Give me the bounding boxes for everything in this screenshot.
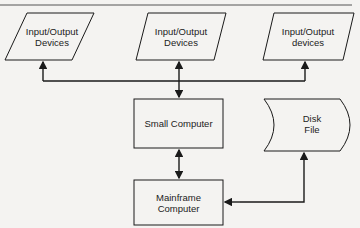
io-left-label: Input/Output Devices	[12, 26, 92, 48]
diagram-canvas: Input/Output Devices Input/Output Device…	[0, 0, 360, 228]
disk-mainframe-connector	[240, 180, 304, 202]
small-computer-label: Small Computer	[134, 118, 223, 129]
io-middle-label: Input/Output Devices	[141, 26, 221, 48]
io-right-label: Input/Output devices	[268, 26, 348, 48]
mainframe-label: Mainframe Computer	[134, 192, 223, 214]
disk-file-label: Disk File	[282, 113, 342, 135]
